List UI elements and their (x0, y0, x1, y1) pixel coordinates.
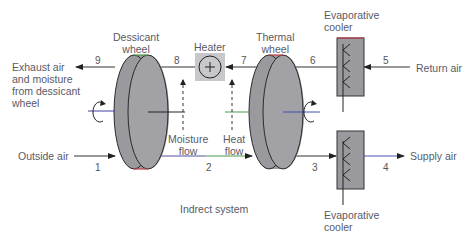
diagram-title: Indrect system (180, 203, 248, 215)
outside-air-label: Outside air (18, 150, 69, 162)
evaporative-cooler-top-label: Evaporative cooler (324, 9, 379, 33)
evaporative-cooler-bottom-label: Evaporative cooler (324, 209, 379, 233)
heater-label: Heater (194, 41, 226, 53)
point-3: 3 (312, 162, 318, 173)
point-5: 5 (383, 55, 389, 66)
thermal-wheel-label: Thermal wheel (256, 31, 295, 55)
heater (195, 53, 225, 81)
heat-flow-label: Heat flow (223, 133, 245, 157)
point-8: 8 (174, 55, 180, 66)
exhaust-air-label: Exhaust air and moisture from dessicant … (12, 61, 80, 109)
evaporative-cooler-bottom (337, 131, 364, 205)
point-1: 1 (95, 162, 101, 173)
dessicant-wheel-label: Dessicant wheel (113, 31, 159, 55)
point-2: 2 (206, 162, 212, 173)
point-7: 7 (241, 55, 247, 66)
return-air-label: Return air (416, 62, 462, 74)
evaporative-cooler-top (337, 38, 364, 112)
point-6: 6 (310, 55, 316, 66)
thermal-rotation-arrow-icon (304, 100, 317, 122)
point-4: 4 (383, 162, 389, 173)
moisture-flow-label: Moisture flow (168, 133, 208, 157)
dessicant-rotation-arrow-icon (88, 100, 115, 122)
supply-air-label: Supply air (410, 150, 457, 162)
point-9: 9 (95, 55, 101, 66)
